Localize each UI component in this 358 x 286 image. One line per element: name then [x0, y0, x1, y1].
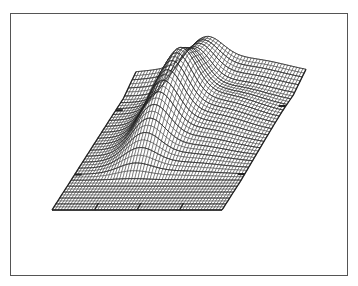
surface-plot — [0, 0, 358, 286]
